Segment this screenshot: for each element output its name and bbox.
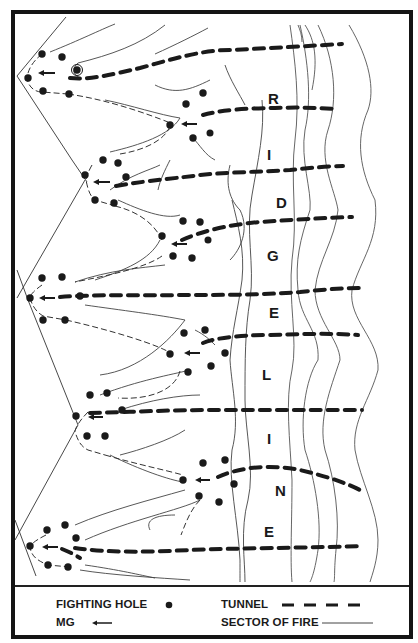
legend: FIGHTING HOLE MG TUNNEL SECTOR OF FIRE [15, 585, 409, 633]
legend-tunnel-label: TUNNEL [221, 598, 268, 610]
finger-contours [50, 24, 263, 582]
mg-arrow-icon [90, 617, 114, 629]
ridge-letter: I [267, 430, 271, 447]
mg-arrow-icon [93, 179, 110, 185]
tunnel-line-icon [280, 600, 370, 610]
ridgeline-label: R I D G E L I N E [262, 90, 287, 540]
sector-of-fire-line-icon [320, 618, 375, 628]
legend-sector-of-fire-label: SECTOR OF FIRE [221, 616, 319, 628]
ridge-letter: D [276, 194, 287, 211]
legend-fighting-hole-label: FIGHTING HOLE [56, 598, 147, 610]
ridge-letter: E [269, 304, 279, 321]
ridge-letter: N [275, 482, 286, 499]
ridge-letter: I [267, 146, 271, 163]
mg-arrow-icon [184, 350, 200, 356]
mg-arrow-icon [42, 544, 58, 550]
mg-arrow-icon [195, 477, 210, 483]
fighting-hole-icon [163, 599, 175, 611]
fighting-holes [24, 50, 237, 570]
ridge-letter: R [268, 90, 279, 107]
mg-arrow-icon [171, 241, 187, 247]
mg-arrow-icon [39, 295, 55, 301]
mg-arrow-icon [38, 70, 55, 76]
ridge-letter: E [264, 523, 274, 540]
tunnels [60, 44, 362, 558]
ridgeline-map: R I D G E L I N E [0, 0, 418, 643]
legend-mg-label: MG [56, 616, 75, 628]
ridge-letter: G [267, 247, 279, 264]
mg-arrow-icon [181, 121, 197, 127]
ridge-letter: L [262, 366, 271, 383]
